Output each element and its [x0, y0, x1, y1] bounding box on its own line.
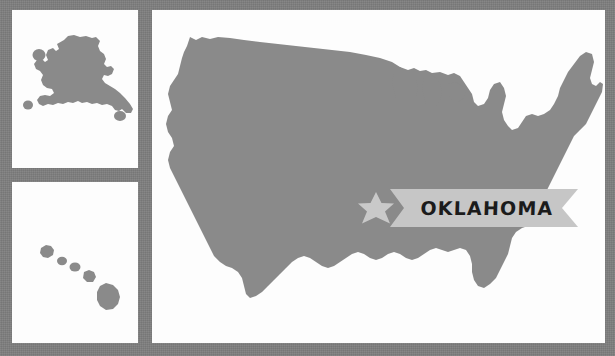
- hawaii-inset-panel: [12, 182, 138, 343]
- contiguous-us-panel: [152, 10, 605, 343]
- alaska-shape: [12, 10, 138, 168]
- banner-label: OKLAHOMA: [389, 189, 578, 227]
- hawaii-shape: [12, 182, 138, 343]
- oklahoma-banner: OKLAHOMA: [390, 189, 578, 227]
- contiguous-us-shape: [152, 10, 605, 343]
- alaska-inset-panel: [12, 10, 138, 168]
- map-graphic: OKLAHOMA: [0, 0, 615, 356]
